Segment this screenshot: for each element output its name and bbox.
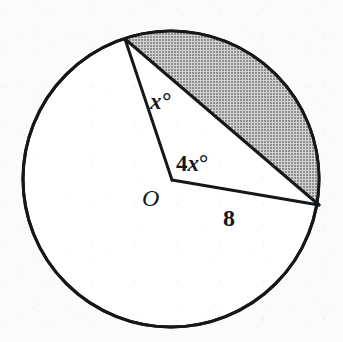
angle-label-four-x-coefficient: 4 [176,151,188,176]
angle-label-four-x-variable: x [188,151,200,176]
angle-label-x: x° [150,90,170,113]
geometry-figure: x° 4x° O 8 [0,0,343,342]
center-point-label: O [142,186,159,210]
angle-label-four-x-degree: ° [199,151,208,176]
radius-length-label: 8 [223,206,235,230]
angle-label-four-x: 4x° [176,152,208,175]
circle-diagram-svg [0,0,343,342]
